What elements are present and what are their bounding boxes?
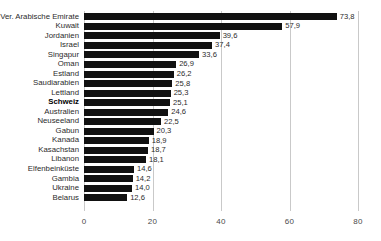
bar-value-label: 57,9 <box>285 22 300 30</box>
bar-value-label: 18,9 <box>152 137 167 145</box>
bar-row: Ukraine14,0 <box>0 184 381 194</box>
category-label: Oman <box>58 60 79 69</box>
x-tick-label: 40 <box>216 217 225 226</box>
bar-row: Jordanien39,6 <box>0 31 381 41</box>
category-label: Libanon <box>51 155 79 164</box>
category-label: Gabun <box>56 127 79 136</box>
bar <box>84 109 168 116</box>
category-label: Jordanien <box>45 32 79 41</box>
bar-value-label: 25,1 <box>173 99 188 107</box>
bar <box>84 194 127 201</box>
bar <box>84 13 337 20</box>
bar-value-label: 25,3 <box>174 89 189 97</box>
category-label: Ukraine <box>52 184 79 193</box>
bar-row: Israel37,4 <box>0 41 381 51</box>
bar <box>84 166 134 173</box>
bar-value-label: 26,2 <box>177 70 192 78</box>
bar-value-label: 24,6 <box>171 108 186 116</box>
x-tick-label: 20 <box>148 217 157 226</box>
category-label: Ver. Arabische Emirate <box>0 13 79 22</box>
category-label: Elfenbeinküste <box>28 165 79 174</box>
category-label: Australien <box>44 108 79 117</box>
bar-value-label: 20,3 <box>157 127 172 135</box>
bar <box>84 80 172 87</box>
category-label: Kuwait <box>56 22 79 31</box>
category-label: Kasachstan <box>38 146 79 155</box>
category-label: Lettland <box>51 89 79 98</box>
bar-value-label: 39,6 <box>223 32 238 40</box>
category-label: Neuseeland <box>37 117 79 126</box>
bar-value-label: 14,2 <box>136 175 151 183</box>
bar-value-label: 22,5 <box>164 118 179 126</box>
bar-chart: 020406080 Ver. Arabische Emirate73,8Kuwa… <box>0 0 381 241</box>
bar-value-label: 25,8 <box>175 80 190 88</box>
bar <box>84 42 212 49</box>
bar <box>84 32 220 39</box>
category-label: Gambia <box>52 175 79 184</box>
bar-value-label: 18,1 <box>149 156 164 164</box>
bar-value-label: 26,9 <box>179 60 194 68</box>
category-label: Kanada <box>52 136 79 145</box>
category-label: Belarus <box>53 194 79 203</box>
bar-row: Oman26,9 <box>0 60 381 70</box>
category-label: Singapur <box>48 51 79 60</box>
bar <box>84 51 199 58</box>
bar-value-label: 73,8 <box>340 13 355 21</box>
bar <box>84 137 149 144</box>
bar <box>84 128 154 135</box>
bar <box>84 147 148 154</box>
bar-value-label: 33,6 <box>202 51 217 59</box>
bar-row: Belarus12,6 <box>0 193 381 203</box>
bar <box>84 175 133 182</box>
bar <box>84 156 146 163</box>
category-label: Estland <box>53 70 79 79</box>
bar-value-label: 37,4 <box>215 41 230 49</box>
category-label: Saudiarabien <box>33 79 79 88</box>
bar <box>84 118 161 125</box>
x-tick-label: 0 <box>82 217 87 226</box>
x-tick-label: 80 <box>353 217 362 226</box>
bar-value-label: 14,0 <box>135 184 150 192</box>
x-tick-label: 60 <box>285 217 294 226</box>
bar-value-label: 14,6 <box>137 165 152 173</box>
bar <box>84 61 176 68</box>
plot-area: 020406080 Ver. Arabische Emirate73,8Kuwa… <box>0 0 381 241</box>
bar-row: Elfenbeinküste14,6 <box>0 165 381 175</box>
bar <box>84 23 282 30</box>
bar-value-label: 12,6 <box>130 194 145 202</box>
bar-value-label: 18,7 <box>151 146 166 154</box>
category-label: Schweiz <box>48 98 79 107</box>
bar <box>84 99 170 106</box>
bar <box>84 90 171 97</box>
bar-row: Kuwait57,9 <box>0 22 381 32</box>
bar <box>84 71 174 78</box>
bar <box>84 185 132 192</box>
category-label: Israel <box>60 41 79 50</box>
